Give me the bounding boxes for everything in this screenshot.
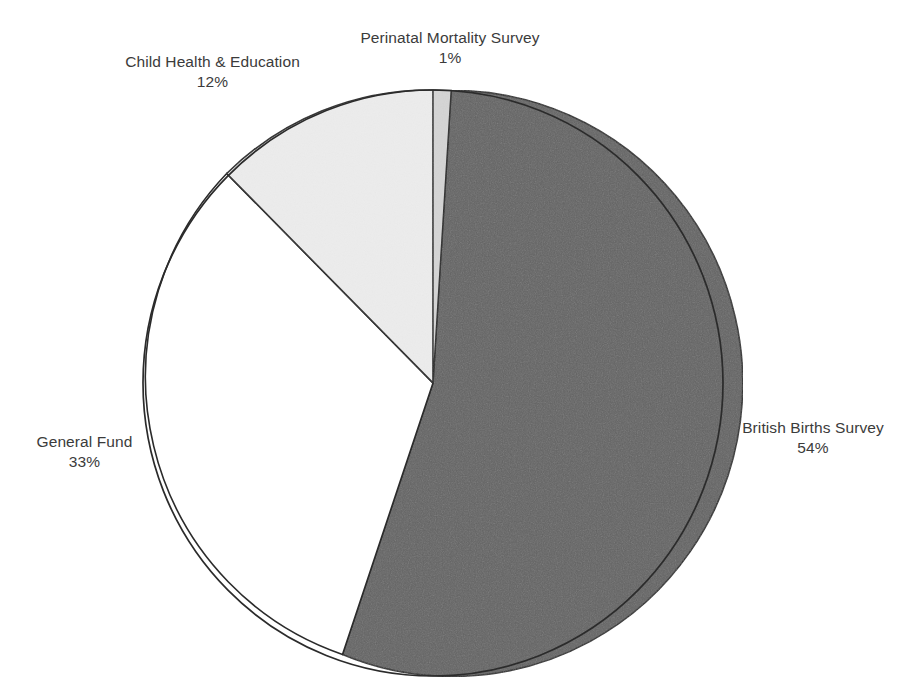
pie-label-child-health-education: Child Health & Education 12%	[100, 52, 325, 92]
pie-label-general-fund: General Fund 33%	[12, 432, 157, 472]
pie-label-name: General Fund	[12, 432, 157, 452]
pie-label-perinatal-mortality-survey: Perinatal Mortality Survey 1%	[335, 28, 565, 68]
pie-chart-page: Perinatal Mortality Survey 1% Child Heal…	[0, 0, 904, 688]
pie-label-name: Child Health & Education	[100, 52, 325, 72]
pie-label-name: British Births Survey	[723, 418, 903, 438]
pie-label-name: Perinatal Mortality Survey	[335, 28, 565, 48]
pie-label-value: 54%	[723, 438, 903, 458]
pie-label-value: 33%	[12, 452, 157, 472]
pie-label-value: 12%	[100, 72, 325, 92]
pie-chart-graphic	[0, 0, 904, 688]
pie-label-british-births-survey: British Births Survey 54%	[723, 418, 903, 458]
pie-label-value: 1%	[335, 48, 565, 68]
